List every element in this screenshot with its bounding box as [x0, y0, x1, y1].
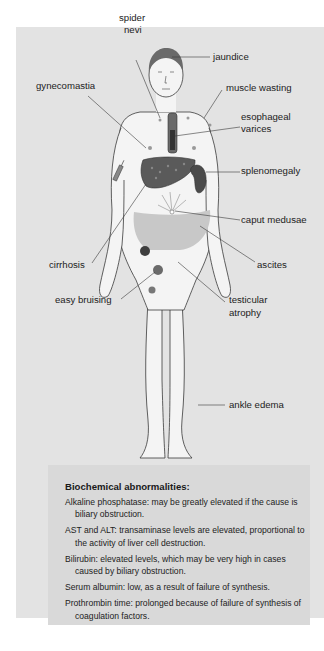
- varices-mark: [170, 130, 175, 150]
- biochem-item-ast-alt: AST and ALT: transaminase levels are ele…: [65, 524, 310, 548]
- label-gynecomastia: gynecomastia: [36, 80, 95, 92]
- label-ankle-edema: ankle edema: [229, 399, 284, 411]
- biochem-item-alkaline-phosphatase: Alkaline phosphatase: may be greatly ele…: [65, 496, 310, 520]
- label-cirrhosis: cirrhosis: [49, 259, 85, 271]
- umbilicus: [170, 210, 174, 214]
- biochem-list: Alkaline phosphatase: may be greatly ele…: [65, 496, 310, 626]
- bruise-1: [140, 246, 150, 256]
- left-leg: [140, 300, 165, 458]
- label-esophageal: esophageal: [241, 111, 291, 123]
- label-muscle-wasting: muscle wasting: [226, 82, 292, 94]
- body-illustration: [0, 0, 324, 460]
- label-jaundice: jaundice: [213, 51, 249, 63]
- label-testicular: testicular: [229, 294, 267, 306]
- label-atrophy: atrophy: [229, 307, 261, 319]
- label-splenomegaly: splenomegaly: [241, 165, 300, 177]
- body-diagram: spider nevi jaundice gynecomastia muscle…: [0, 0, 324, 460]
- biochem-item-prothrombin-time: Prothrombin time: prolonged because of f…: [65, 597, 310, 621]
- left-arm: [99, 128, 124, 297]
- bruise-2: [153, 265, 163, 275]
- label-nevi: nevi: [124, 24, 142, 36]
- label-spider: spider: [119, 12, 145, 24]
- syringe-icon: [31, 458, 61, 460]
- label-varices: varices: [241, 123, 271, 135]
- biochem-item-serum-albumin: Serum albumin: low, as a result of failu…: [65, 581, 310, 593]
- biochem-item-bilirubin: Bilirubin: elevated levels, which may be…: [65, 553, 310, 577]
- biochemical-box: Biochemical abnormalities: Alkaline phos…: [48, 465, 310, 625]
- label-ascites: ascites: [257, 259, 287, 271]
- label-caput-medusae: caput medusae: [241, 214, 307, 226]
- bruise-3: [149, 287, 156, 294]
- label-easy-bruising: easy bruising: [55, 294, 112, 306]
- right-leg: [168, 300, 192, 458]
- biochem-title: Biochemical abnormalities:: [65, 481, 190, 492]
